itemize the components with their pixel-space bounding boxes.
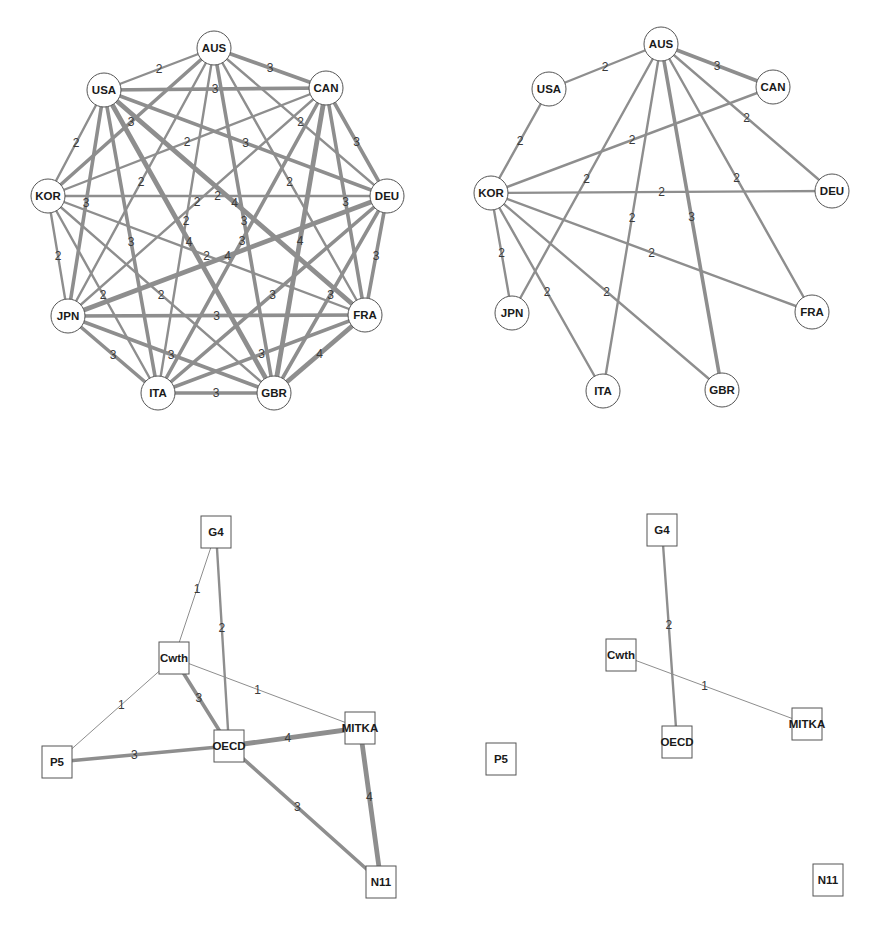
edge-weight-label: 2 <box>100 288 107 302</box>
edge-weight-label: 2 <box>194 195 201 209</box>
edge-weight-label: 3 <box>714 59 721 73</box>
node-fra: FRA <box>348 298 382 332</box>
edge-weight-label: 4 <box>297 234 304 248</box>
edge-weight-label: 1 <box>118 698 125 712</box>
edge-weight-label: 2 <box>629 211 636 225</box>
edge-weight-label: 2 <box>648 246 655 260</box>
edge-weight-label: 2 <box>743 111 750 125</box>
edge-weight-label: 2 <box>203 249 210 263</box>
node-can: CAN <box>309 71 343 105</box>
edge-weight-label: 3 <box>213 309 220 323</box>
node-label: CAN <box>314 82 339 94</box>
edge-oecd-n11 <box>229 746 381 882</box>
edge-weight-label: 2 <box>286 175 293 189</box>
node-gbr: GBR <box>257 376 291 410</box>
edge-weight-label: 3 <box>128 115 135 129</box>
edge-weight-label: 2 <box>629 133 636 147</box>
edge-mitka-n11 <box>360 728 381 882</box>
edge-weight-label: 2 <box>517 134 524 148</box>
edge-cwth-p5 <box>57 658 174 762</box>
node-aus: AUS <box>644 27 678 61</box>
node-label: MITKA <box>789 718 825 730</box>
edge-weight-label: 3 <box>239 234 246 248</box>
node-kor: KOR <box>474 176 508 210</box>
edge-weight-label: 3 <box>267 61 274 75</box>
node-g4: G4 <box>201 516 231 548</box>
edge-weight-label: 4 <box>186 235 193 249</box>
edge-weight-label: 3 <box>213 386 220 400</box>
panel-group-network-full: 121313434G4CwthP5OECDMITKAN11 <box>42 516 396 898</box>
edge-weight-label: 1 <box>254 683 261 697</box>
node-n11: N11 <box>366 866 396 898</box>
node-label: G4 <box>208 526 224 538</box>
node-label: DEU <box>820 185 844 197</box>
node-kor: KOR <box>31 179 65 213</box>
node-oecd: OECD <box>660 726 693 758</box>
edge-weight-label: 2 <box>73 136 80 150</box>
node-ita: ITA <box>141 376 175 410</box>
node-p5: P5 <box>486 743 516 775</box>
edge-labels: 121313434 <box>118 582 373 815</box>
node-label: ITA <box>149 387 167 399</box>
edge-weight-label: 3 <box>83 196 90 210</box>
node-jpn: JPN <box>495 296 529 330</box>
edge-weight-label: 3 <box>342 195 349 209</box>
edge-weight-label: 2 <box>219 621 226 635</box>
edge-weight-label: 3 <box>131 748 138 762</box>
network-diagrams: 233222233233434232334222224333333343AUSU… <box>0 0 872 932</box>
edge-weight-label: 4 <box>224 249 231 263</box>
edge-weight-label: 2 <box>156 62 163 76</box>
node-label: JPN <box>501 307 523 319</box>
node-label: N11 <box>818 874 839 886</box>
node-label: P5 <box>50 756 65 768</box>
node-usa: USA <box>87 73 121 107</box>
node-gbr: GBR <box>705 373 739 407</box>
panel-country-network-filtered: 23222322222222AUSUSACANKORDEUJPNFRAITAGB… <box>474 27 849 408</box>
node-ita: ITA <box>586 374 620 408</box>
edge-g4-oecd <box>216 532 229 746</box>
edge-weight-label: 2 <box>214 189 221 203</box>
node-cwth: Cwth <box>159 642 189 674</box>
edge-weight-label: 1 <box>701 679 708 693</box>
edge-weight-label: 2 <box>602 60 609 74</box>
edge-weight-label: 3 <box>688 210 695 224</box>
edge-weight-label: 2 <box>297 115 304 129</box>
node-label: GBR <box>261 387 287 399</box>
edge-g4-oecd <box>662 530 677 742</box>
node-label: KOR <box>35 190 61 202</box>
node-label: GBR <box>709 384 735 396</box>
node-label: FRA <box>353 309 377 321</box>
edge-weight-label: 4 <box>316 347 323 361</box>
edge-weight-label: 3 <box>294 800 301 814</box>
edge-weight-label: 3 <box>327 288 334 302</box>
edge-oecd-mitka <box>229 728 360 746</box>
edge-weight-label: 3 <box>373 249 380 263</box>
node-label: DEU <box>375 190 399 202</box>
edge-weight-label: 3 <box>195 691 202 705</box>
panel-group-network-filtered: 21G4CwthMITKAOECDP5N11 <box>486 514 843 896</box>
edge-weight-label: 2 <box>658 185 665 199</box>
edge-weight-label: 2 <box>183 214 190 228</box>
node-label: FRA <box>800 306 824 318</box>
edge-weight-label: 3 <box>168 348 175 362</box>
node-usa: USA <box>532 72 566 106</box>
node-label: CAN <box>761 81 786 93</box>
edge-weight-label: 2 <box>55 249 62 263</box>
edge-weight-label: 4 <box>285 731 292 745</box>
node-label: USA <box>537 83 561 95</box>
edge-p5-oecd <box>57 746 229 762</box>
node-label: P5 <box>494 753 509 765</box>
node-fra: FRA <box>795 295 829 329</box>
edge-weight-label: 3 <box>128 235 135 249</box>
edge-weight-label: 2 <box>583 172 590 186</box>
node-oecd: OECD <box>212 730 245 762</box>
edge-weight-label: 2 <box>158 288 165 302</box>
node-cwth: Cwth <box>606 639 636 671</box>
edges <box>621 530 807 742</box>
node-g4: G4 <box>647 514 677 546</box>
edges <box>57 532 381 882</box>
node-jpn: JPN <box>51 299 85 333</box>
node-can: CAN <box>756 70 790 104</box>
edge-weight-label: 3 <box>353 135 360 149</box>
node-label: MITKA <box>342 722 378 734</box>
